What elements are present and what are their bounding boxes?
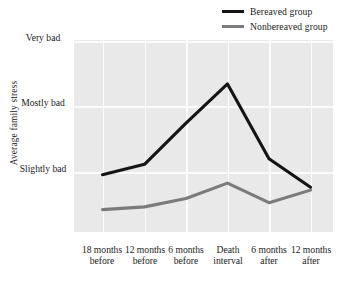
x-tick-5-line2: after	[283, 255, 339, 266]
y-tick-slightly-bad-line1: Slightly	[20, 163, 50, 174]
y-tick-very-bad: Very bad	[12, 33, 74, 44]
gridline-vertical-1	[103, 40, 105, 232]
gridline-horizontal-slightly-bad	[74, 172, 333, 174]
y-tick-mostly-bad-line1: Mostly	[21, 97, 48, 108]
y-tick-slightly-bad-line2: bad	[52, 163, 66, 174]
gridline-vertical-5	[269, 40, 271, 232]
legend-item-bereaved: Bereaved group	[222, 4, 356, 19]
gridline-horizontal-very-bad	[74, 41, 333, 43]
legend-label-nonbereaved: Nonbereaved group	[250, 22, 328, 32]
line-chart-figure: Bereaved group Nonbereaved group Average…	[0, 0, 356, 283]
y-tick-mostly-bad-line2: bad	[51, 97, 65, 108]
y-axis: Average family stress Very bad Mostly ba…	[0, 0, 74, 283]
gridline-vertical-3	[186, 40, 188, 232]
x-tick-5-line1: 12 months	[283, 244, 339, 255]
plot-area	[74, 40, 333, 232]
legend-swatch-icon-nonbereaved	[222, 25, 244, 28]
y-tick-slightly-bad: Slightly bad	[12, 164, 74, 175]
legend-swatch-icon-bereaved	[222, 10, 244, 13]
legend-item-nonbereaved: Nonbereaved group	[222, 19, 356, 34]
chart-legend: Bereaved group Nonbereaved group	[222, 4, 356, 34]
gridline-vertical-4	[228, 40, 230, 232]
gridline-vertical-2	[145, 40, 147, 232]
gridline-horizontal-mostly-bad	[74, 106, 333, 108]
y-tick-very-bad-line2: bad	[46, 32, 60, 43]
x-tick-12-months-after: 12 months after	[283, 244, 339, 266]
y-tick-mostly-bad: Mostly bad	[12, 98, 74, 109]
y-tick-very-bad-line1: Very	[26, 32, 44, 43]
gridline-vertical-6	[311, 40, 313, 232]
legend-label-bereaved: Bereaved group	[250, 7, 312, 17]
